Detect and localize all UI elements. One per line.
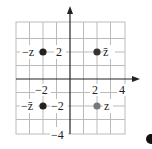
label-neg-z: −z [22,45,34,59]
tick-x-2: 2 [92,83,98,97]
tick-y-neg4: −4 [51,128,64,142]
axes [16,12,134,134]
label-zbar: z̄ [103,45,108,59]
tick-y-2: 2 [56,45,62,59]
point-neg-zbar [39,102,46,109]
y-axis-arrow-icon [67,6,73,14]
tick-y-neg2: −2 [51,99,64,113]
x-axis-arrow-icon [132,76,140,82]
label-neg-zbar: −z̄ [21,99,33,113]
tick-x-neg2: −2 [35,83,48,97]
point-z [93,102,100,109]
point-neg-z [39,48,46,55]
complex-plane-chart: −z z̄ −z̄ z 2 −2 2 4 −2 −4 [0,0,152,149]
label-z: z [104,99,109,113]
corner-bullet-icon [146,134,152,144]
tick-x-4: 4 [119,83,125,97]
point-zbar [93,48,100,55]
